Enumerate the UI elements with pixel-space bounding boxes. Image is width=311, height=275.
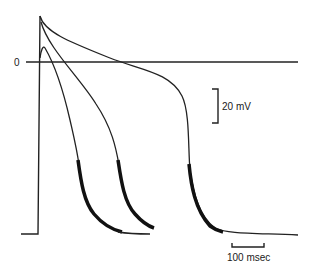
time-scale-label: 100 msec <box>227 252 270 263</box>
upstroke <box>21 16 40 234</box>
action-potential-plot: 0 20 mV 100 msec <box>0 0 311 275</box>
zero-label: 0 <box>14 57 20 68</box>
short-action-potential <box>40 47 79 165</box>
voltage-scale-label: 20 mV <box>222 101 251 112</box>
voltage-scale-bar <box>212 89 218 123</box>
medium-action-potential <box>41 22 119 165</box>
medium-ap-thick <box>118 160 154 228</box>
long-ap-repolarization <box>190 170 298 235</box>
long-ap-thick <box>189 164 223 232</box>
time-scale-bar <box>232 243 264 247</box>
short-ap-tail <box>118 232 150 234</box>
action-potential-figure: 0 20 mV 100 msec <box>0 0 311 275</box>
short-ap-thick <box>78 160 122 232</box>
